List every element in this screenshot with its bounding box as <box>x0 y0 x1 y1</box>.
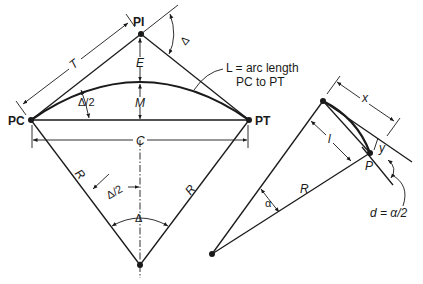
arc-length-callout-line1: L = arc length <box>226 61 299 75</box>
deflection-d-leader <box>392 175 405 206</box>
inset-center-point <box>209 251 215 257</box>
half-deflection-top-label: Δ/2 <box>78 96 95 108</box>
tangent-extension-line <box>141 5 178 34</box>
pi-point <box>138 31 144 37</box>
inset-radius-to-p <box>212 153 370 254</box>
p-label: P <box>365 159 373 173</box>
half-deflection-center-arrow-left <box>93 174 109 189</box>
chord-label: C <box>136 134 145 148</box>
central-angle-label: Δ <box>135 212 143 224</box>
pt-label: PT <box>255 114 271 128</box>
external-label: E <box>136 56 145 70</box>
deflection-formula-label: d = α/2 <box>370 206 408 220</box>
main-curve-diagram: PI PC PT T E M C R R Δ Δ/2 Δ/2 Δ L = arc… <box>8 5 299 278</box>
forward-tangent-line <box>141 34 249 120</box>
x-dim-lower <box>369 104 394 121</box>
pt-point <box>246 117 252 123</box>
inset-offset-diagram: x y l R P α d = α/2 <box>209 76 412 257</box>
arc-length-callout-line2: PC to PT <box>236 75 285 89</box>
middle-ordinate-label: M <box>135 96 145 110</box>
tangent-dim-upper <box>81 23 128 59</box>
pc-point <box>28 117 34 123</box>
l-dim-lower <box>333 143 351 161</box>
curve-diagram: PI PC PT T E M C R R Δ Δ/2 Δ/2 Δ L = arc… <box>0 0 423 284</box>
inset-tangent-point <box>320 98 326 104</box>
tangent-dim-lower <box>23 69 69 104</box>
alpha-label: α <box>265 197 272 209</box>
radius-right-label: R <box>182 182 199 198</box>
radius-left-label: R <box>72 166 89 182</box>
inset-p-point <box>367 150 373 156</box>
x-label: x <box>361 91 369 105</box>
pi-label: PI <box>133 15 144 29</box>
deflection-angle-arc <box>169 14 174 54</box>
pc-label: PC <box>8 114 25 128</box>
l-dim-upper <box>311 121 326 135</box>
l-label: l <box>328 132 331 146</box>
deflection-label: Δ <box>177 33 191 47</box>
half-deflection-center-label: Δ/2 <box>104 183 124 202</box>
center-point <box>137 262 143 268</box>
y-label: y <box>378 141 386 155</box>
x-dim-upper <box>337 82 360 98</box>
inset-radius-label: R <box>300 182 309 196</box>
x-ext-top <box>327 76 340 94</box>
y-dim <box>374 138 378 150</box>
